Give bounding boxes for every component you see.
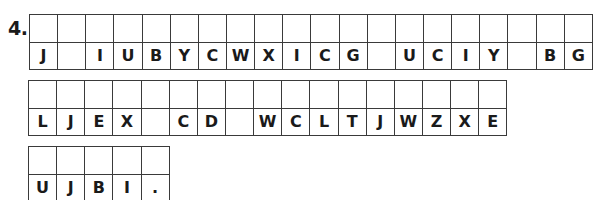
cipher-letter: E: [479, 109, 506, 137]
cipher-letter: J: [30, 43, 57, 71]
cipher-letter: E: [85, 109, 112, 137]
puzzle-cell: I: [452, 15, 480, 70]
puzzle-cell: W: [254, 81, 282, 136]
cipher-letter: C: [170, 109, 197, 137]
answer-box[interactable]: [565, 15, 592, 43]
puzzle-cell: W: [227, 15, 255, 70]
puzzle-cell: E: [85, 81, 113, 136]
puzzle-cell: U: [29, 147, 57, 200]
answer-box[interactable]: [255, 15, 282, 43]
puzzle-cell: C: [424, 15, 452, 70]
puzzle-cell: L: [310, 81, 338, 136]
puzzle-cell: Y: [480, 15, 508, 70]
answer-box[interactable]: [310, 81, 337, 109]
puzzle-cell: T: [339, 81, 367, 136]
answer-box[interactable]: [367, 81, 394, 109]
puzzle-cell: [58, 15, 86, 70]
answer-box[interactable]: [170, 81, 197, 109]
puzzle-cell: J: [30, 15, 58, 70]
answer-box[interactable]: [479, 81, 506, 109]
cipher-letter: L: [29, 109, 56, 137]
answer-box[interactable]: [340, 15, 367, 43]
cipher-letter: B: [143, 43, 170, 71]
answer-box[interactable]: [339, 81, 366, 109]
answer-box[interactable]: [198, 81, 225, 109]
puzzle-cell: [508, 15, 536, 70]
cipher-grid-row-3: UJBI.: [28, 146, 170, 200]
answer-box[interactable]: [396, 15, 423, 43]
cipher-letter: J: [57, 109, 84, 137]
puzzle-cell: U: [114, 15, 142, 70]
answer-box[interactable]: [226, 81, 253, 109]
answer-box[interactable]: [142, 81, 169, 109]
answer-box[interactable]: [451, 81, 478, 109]
answer-box[interactable]: [423, 81, 450, 109]
problem-number: 4.: [8, 17, 27, 39]
cipher-letter: I: [452, 43, 479, 71]
cipher-letter: C: [424, 43, 451, 71]
cipher-letter: I: [283, 43, 310, 71]
cipher-letter: .: [142, 175, 169, 201]
puzzle-cell: G: [565, 15, 593, 70]
answer-box[interactable]: [537, 15, 564, 43]
answer-box[interactable]: [311, 15, 338, 43]
cipher-letter: Z: [423, 109, 450, 137]
answer-box[interactable]: [57, 81, 84, 109]
puzzle-cell: [368, 15, 396, 70]
answer-box[interactable]: [29, 147, 56, 175]
puzzle-cell: [226, 81, 254, 136]
cipher-letter: Y: [171, 43, 198, 71]
answer-box[interactable]: [227, 15, 254, 43]
puzzle-cell: B: [143, 15, 171, 70]
answer-box[interactable]: [57, 147, 84, 175]
cipher-letter: I: [86, 43, 113, 71]
answer-box[interactable]: [199, 15, 226, 43]
answer-box[interactable]: [171, 15, 198, 43]
puzzle-cell: C: [282, 81, 310, 136]
answer-box[interactable]: [85, 147, 112, 175]
answer-box[interactable]: [142, 147, 169, 175]
cipher-letter: U: [114, 43, 141, 71]
cipher-letter: G: [340, 43, 367, 71]
answer-box[interactable]: [86, 15, 113, 43]
answer-box[interactable]: [114, 15, 141, 43]
answer-box[interactable]: [424, 15, 451, 43]
puzzle-cell: B: [537, 15, 565, 70]
puzzle-cell: I: [113, 147, 141, 200]
answer-box[interactable]: [282, 81, 309, 109]
answer-box[interactable]: [283, 15, 310, 43]
cipher-letter: [226, 109, 253, 137]
answer-box[interactable]: [143, 15, 170, 43]
cipher-letter: D: [198, 109, 225, 137]
puzzle-cell: X: [255, 15, 283, 70]
puzzle-cell: X: [113, 81, 141, 136]
answer-box[interactable]: [30, 15, 57, 43]
answer-box[interactable]: [58, 15, 85, 43]
puzzle-cell: E: [479, 81, 507, 136]
cipher-letter: [142, 109, 169, 137]
cipher-letter: X: [255, 43, 282, 71]
puzzle-cell: C: [170, 81, 198, 136]
answer-box[interactable]: [368, 15, 395, 43]
answer-box[interactable]: [254, 81, 281, 109]
cipher-grid-row-2: LJEXCDWCLTJWZXE: [28, 80, 507, 136]
answer-box[interactable]: [113, 147, 140, 175]
answer-box[interactable]: [452, 15, 479, 43]
answer-box[interactable]: [480, 15, 507, 43]
answer-box[interactable]: [29, 81, 56, 109]
puzzle-cell: I: [283, 15, 311, 70]
puzzle-cell: J: [57, 147, 85, 200]
cipher-letter: I: [113, 175, 140, 201]
cipher-letter: U: [396, 43, 423, 71]
answer-box[interactable]: [395, 81, 422, 109]
puzzle-cell: W: [395, 81, 423, 136]
cipher-letter: L: [310, 109, 337, 137]
answer-box[interactable]: [113, 81, 140, 109]
cipher-letter: W: [227, 43, 254, 71]
puzzle-cell: Y: [171, 15, 199, 70]
puzzle-cell: J: [57, 81, 85, 136]
puzzle-cell: [142, 81, 170, 136]
answer-box[interactable]: [508, 15, 535, 43]
answer-box[interactable]: [85, 81, 112, 109]
cipher-letter: Y: [480, 43, 507, 71]
